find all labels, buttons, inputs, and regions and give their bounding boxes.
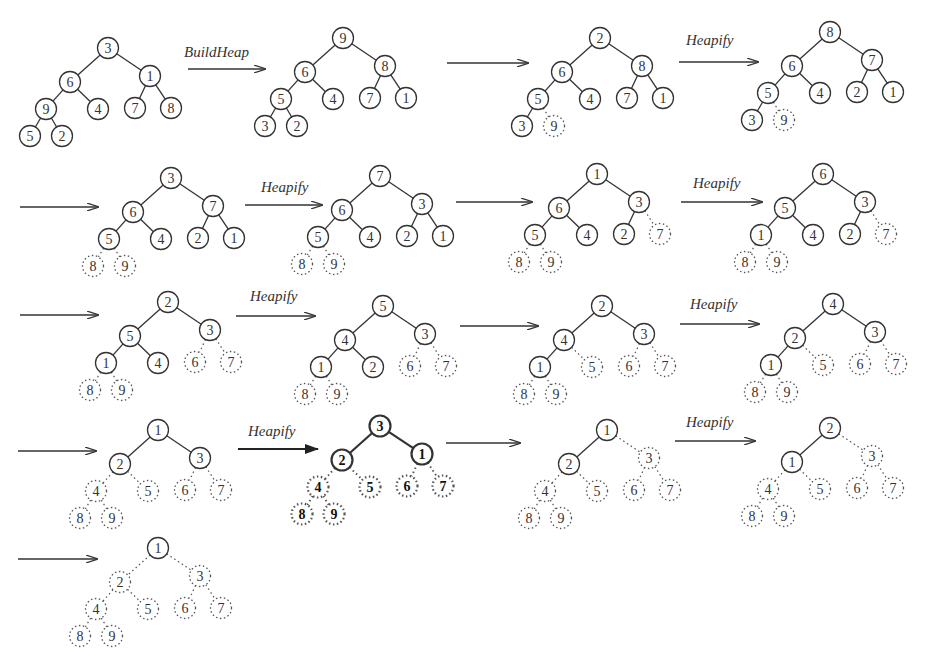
node-value: 5 bbox=[594, 484, 601, 499]
heap-node: 2 bbox=[397, 226, 418, 247]
sorted-node: 8 bbox=[514, 384, 535, 405]
tree-edge bbox=[350, 183, 372, 203]
sorted-node: 3 bbox=[190, 566, 211, 587]
heap-node: 6 bbox=[123, 202, 144, 223]
node-value: 6 bbox=[854, 481, 861, 496]
sorted-node: 6 bbox=[400, 356, 421, 377]
tree-edge bbox=[325, 218, 335, 229]
node-value: 7 bbox=[443, 359, 450, 374]
tree-edge bbox=[631, 76, 637, 89]
tree-edge bbox=[111, 372, 116, 381]
node-value: 4 bbox=[330, 92, 337, 107]
heap-node: 4 bbox=[803, 225, 824, 246]
node-value: 5 bbox=[380, 299, 387, 314]
tree-edge bbox=[628, 212, 634, 225]
tree-edge bbox=[307, 246, 312, 255]
tree-swap-6: 123456789 bbox=[70, 420, 232, 529]
node-value: 5 bbox=[278, 92, 285, 107]
tree-edge bbox=[326, 376, 331, 385]
tree-edge bbox=[773, 102, 778, 111]
tree-edge bbox=[103, 472, 113, 483]
heap-node: 2 bbox=[188, 228, 209, 249]
node-value: 5 bbox=[145, 602, 152, 617]
node-value: 3 bbox=[422, 327, 429, 342]
heap-node: 3 bbox=[634, 324, 655, 345]
node-value: 8 bbox=[752, 385, 759, 400]
heap-node: 4 bbox=[810, 83, 831, 104]
tree-heapify-2: 763542189 bbox=[292, 166, 454, 275]
node-value: 8 bbox=[526, 511, 533, 526]
tree-edge bbox=[655, 467, 664, 481]
heap-node: 4 bbox=[823, 294, 844, 315]
tree-swap-7: 123456789 bbox=[519, 420, 681, 529]
heap-node: 1 bbox=[412, 444, 433, 465]
heap-node: 3 bbox=[412, 194, 433, 215]
tree-edge bbox=[156, 85, 165, 99]
node-value: 6 bbox=[407, 359, 414, 374]
tree-edge bbox=[128, 555, 150, 575]
node-value: 8 bbox=[302, 387, 309, 402]
heap-node: 7 bbox=[125, 98, 146, 119]
heap-node: 2 bbox=[847, 82, 868, 103]
tree-edge bbox=[141, 185, 163, 205]
node-value: 8 bbox=[521, 387, 528, 402]
tree-edge bbox=[216, 339, 225, 353]
sorted-node: 8 bbox=[735, 252, 756, 273]
tree-edge bbox=[577, 437, 599, 457]
sorted-node: 2 bbox=[110, 572, 131, 593]
sorted-node: 9 bbox=[102, 508, 123, 529]
heap-node: 2 bbox=[110, 454, 131, 475]
sorted-node: 6 bbox=[397, 476, 418, 497]
tree-edge bbox=[760, 374, 765, 383]
node-value: 2 bbox=[599, 299, 606, 314]
tree-edge bbox=[431, 343, 440, 357]
tree-edge bbox=[101, 500, 106, 509]
tree-edge bbox=[545, 80, 555, 91]
node-value: 8 bbox=[77, 629, 84, 644]
sorted-node: 8 bbox=[80, 380, 101, 401]
tree-edge bbox=[775, 74, 785, 85]
tree-edge bbox=[534, 500, 539, 509]
sorted-node: 7 bbox=[886, 354, 907, 375]
node-value: 7 bbox=[890, 481, 897, 496]
sorted-node: 9 bbox=[112, 380, 133, 401]
sorted-node: 9 bbox=[546, 384, 567, 405]
tree-edge bbox=[793, 181, 815, 201]
tree-edge bbox=[616, 436, 641, 452]
heap-node: 3 bbox=[98, 38, 119, 59]
tree-edge bbox=[881, 341, 890, 355]
node-value: 8 bbox=[168, 101, 175, 116]
sorted-node: 5 bbox=[813, 355, 834, 376]
node-value: 4 bbox=[342, 333, 349, 348]
tree-heapify-5: 423156789 bbox=[745, 294, 907, 403]
tree-edge bbox=[323, 496, 328, 505]
arrow-label-heapify: Heapify bbox=[686, 414, 733, 431]
tree-edge bbox=[101, 618, 106, 627]
sorted-node: 9 bbox=[102, 626, 123, 647]
tree-edge bbox=[567, 181, 589, 201]
node-value: 6 bbox=[820, 167, 827, 182]
tree-edge bbox=[570, 79, 583, 91]
tree-final: 123456789 bbox=[70, 538, 232, 647]
node-value: 5 bbox=[820, 358, 827, 373]
sorted-node: 8 bbox=[83, 256, 104, 277]
node-value: 8 bbox=[749, 509, 756, 524]
node-value: 3 bbox=[377, 419, 384, 434]
tree-edge bbox=[878, 69, 887, 83]
node-value: 3 bbox=[419, 197, 426, 212]
node-value: 6 bbox=[556, 201, 563, 216]
heap-node: 4 bbox=[335, 330, 356, 351]
tree-swap-5: 243156789 bbox=[514, 296, 676, 405]
tree-edge bbox=[350, 433, 372, 453]
node-value: 5 bbox=[817, 482, 824, 497]
sorted-node: 6 bbox=[847, 478, 868, 499]
node-value: 2 bbox=[195, 231, 202, 246]
node-value: 1 bbox=[440, 229, 447, 244]
node-value: 3 bbox=[197, 569, 204, 584]
sorted-node: 6 bbox=[850, 354, 871, 375]
heap-node: 5 bbox=[775, 198, 796, 219]
heap-node: 1 bbox=[782, 452, 803, 473]
node-value: 4 bbox=[587, 92, 594, 107]
tree-edge bbox=[606, 180, 631, 196]
node-value: 7 bbox=[883, 227, 890, 242]
